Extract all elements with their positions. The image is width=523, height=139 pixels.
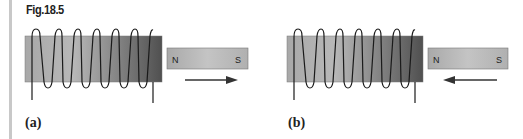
- panel-b-motion-arrow-left: [443, 76, 497, 84]
- panel-a-solenoid: [25, 29, 162, 103]
- south-pole-label: S: [496, 55, 502, 65]
- panel-b-label: (b): [288, 115, 305, 131]
- panel-b-bar-magnet: N S: [428, 48, 508, 69]
- induction-diagram: N S: [0, 0, 523, 139]
- iron-core: [25, 36, 162, 82]
- figure-18-5: Fig.18.5: [0, 0, 523, 139]
- panel-a-motion-arrow-right: [185, 76, 238, 84]
- panel-a-bar-magnet: N S: [167, 48, 248, 69]
- north-pole-label: N: [433, 55, 440, 65]
- panel-a-label: (a): [25, 115, 41, 131]
- panel-b-solenoid: [287, 29, 423, 103]
- south-pole-label: S: [235, 55, 241, 65]
- north-pole-label: N: [172, 55, 179, 65]
